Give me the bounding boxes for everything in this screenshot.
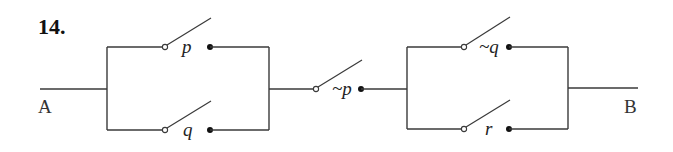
- switch-q-label: q: [183, 119, 193, 140]
- parallel-block-p-q: p q: [107, 18, 269, 140]
- switch-r: r: [407, 100, 568, 139]
- switch-not-q: ~q: [407, 17, 568, 57]
- switch-not-p-label: ~p: [332, 78, 352, 99]
- switch-p: p: [107, 18, 269, 57]
- open-contact-icon: [461, 126, 466, 131]
- switch-not-q-label: ~q: [479, 36, 499, 57]
- switch-q: q: [107, 101, 269, 140]
- terminal-b-label: B: [624, 96, 637, 117]
- open-contact-icon: [313, 86, 318, 91]
- open-contact-icon: [461, 44, 466, 49]
- switch-r-label: r: [485, 118, 493, 139]
- circuit-diagram: 14. A p q ~p: [0, 0, 673, 152]
- open-contact-icon: [162, 127, 167, 132]
- problem-number: 14.: [38, 14, 66, 39]
- switch-not-p: ~p: [269, 60, 407, 99]
- terminal-a-label: A: [38, 96, 52, 117]
- open-contact-icon: [162, 44, 167, 49]
- switch-p-label: p: [180, 36, 192, 57]
- parallel-block-notq-r: ~q r: [407, 17, 568, 139]
